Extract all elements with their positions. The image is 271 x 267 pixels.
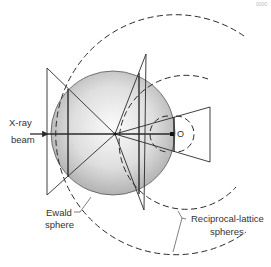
recip-label-line1: Reciprocal-lattice <box>191 213 264 224</box>
ewald-leader <box>74 197 91 212</box>
ewald-label-line1: Ewald <box>46 207 72 218</box>
corner-mark: 0000 <box>256 1 267 7</box>
crystal-center <box>114 133 117 136</box>
recip-leader <box>173 211 186 252</box>
xray-label-line1: X-ray <box>9 117 32 128</box>
ewald-sphere-diagram: X-ray beam O Ewald sphere Reciprocal-lat… <box>0 0 271 267</box>
xray-label-line2: beam <box>11 134 35 145</box>
recip-label-line2: spheres <box>210 226 244 237</box>
ewald-label-line2: sphere <box>45 219 74 230</box>
origin-point <box>170 132 174 136</box>
origin-label: O <box>177 129 184 140</box>
